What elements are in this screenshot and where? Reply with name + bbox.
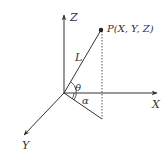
point-p-label: P(X, Y, Z) [106,23,154,34]
z-axis-label: Z [69,11,78,24]
y-axis [24,93,64,135]
coordinate-diagram: Z X Y P(X, Y, Z) L θ α [0,0,168,158]
point-p-marker [99,28,103,32]
alpha-arc [72,93,74,99]
alpha-label: α [82,95,89,106]
x-axis-label: X [151,98,161,111]
theta-label: θ [75,82,81,93]
vector-l-label: L [74,51,82,64]
y-axis-label: Y [22,139,31,152]
vector-l [64,30,101,93]
